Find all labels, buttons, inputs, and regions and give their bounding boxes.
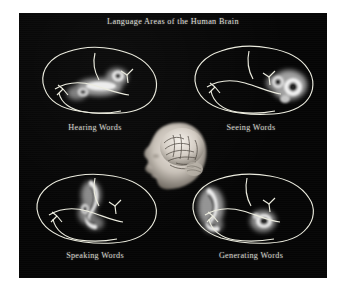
poster-panel: Language Areas of the Human Brain (19, 13, 327, 278)
head-brain-render (132, 117, 214, 195)
brain-outline-hearing-words (21, 31, 169, 123)
panel-caption-speaking-words: Speaking Words (21, 251, 169, 260)
panel-caption-generating-words: Generating Words (177, 251, 325, 260)
page-title: Language Areas of the Human Brain (19, 17, 327, 26)
figure-root: Language Areas of the Human Brain (0, 0, 346, 296)
head-render-svg (132, 117, 214, 195)
brain-outline-seeing-words (177, 31, 325, 123)
